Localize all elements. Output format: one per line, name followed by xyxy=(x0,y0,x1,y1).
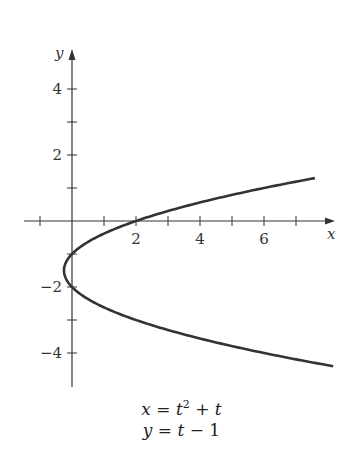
x-axis-label: x xyxy=(327,225,336,243)
y-axis-arrow-icon xyxy=(69,49,76,60)
y-tick-label: −2 xyxy=(40,278,62,296)
y-tick-label: −4 xyxy=(40,344,62,362)
x-tick-label: 6 xyxy=(259,230,269,248)
equation-y: y = t − 1 xyxy=(0,420,363,440)
parametric-curve xyxy=(64,178,333,366)
y-axis-label: y xyxy=(54,44,64,62)
x-axis-arrow-icon xyxy=(325,218,335,225)
x-tick-label: 4 xyxy=(195,230,205,248)
equation-x: x = t2 + t xyxy=(0,398,363,419)
chart: 24642−2−4xy x = t2 + t y = t − 1 xyxy=(0,0,363,455)
x-tick-label: 2 xyxy=(131,230,141,248)
plot-area: 24642−2−4xy xyxy=(0,0,363,400)
y-tick-label: 4 xyxy=(52,80,62,98)
y-tick-label: 2 xyxy=(52,146,62,164)
